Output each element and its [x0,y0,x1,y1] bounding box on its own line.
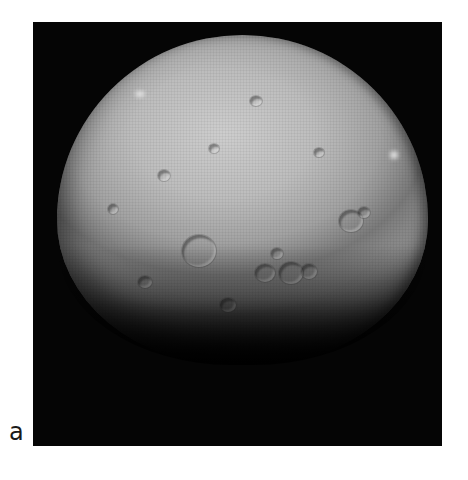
terminator-shadow [57,245,428,365]
crater [107,203,119,215]
crater [357,206,371,219]
bright-spot [390,151,398,159]
bright-spot [135,91,145,97]
planet-body [57,35,428,365]
crater [157,169,171,182]
planet-photograph [33,22,442,446]
crater [313,147,325,158]
panel-label: a [9,420,24,444]
crater [249,95,263,107]
crater [208,143,220,154]
